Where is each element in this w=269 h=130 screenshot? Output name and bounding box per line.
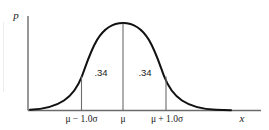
tick-label-mean: μ bbox=[120, 114, 125, 124]
x-axis-label: x bbox=[239, 112, 245, 124]
normal-curve-chart: p x .34 .34 μ − 1.0σ μ μ + 1.0σ bbox=[0, 0, 269, 130]
tick-label-plus-one-sigma: μ + 1.0σ bbox=[151, 114, 183, 124]
normal-distribution-figure: p x .34 .34 μ − 1.0σ μ μ + 1.0σ bbox=[0, 0, 269, 130]
gaussian-curve-path bbox=[30, 23, 231, 110]
y-axis-label: p bbox=[12, 9, 19, 21]
tick-label-minus-one-sigma: μ − 1.0σ bbox=[65, 114, 97, 124]
area-label-left: .34 bbox=[94, 67, 107, 78]
area-label-right: .34 bbox=[138, 67, 151, 78]
